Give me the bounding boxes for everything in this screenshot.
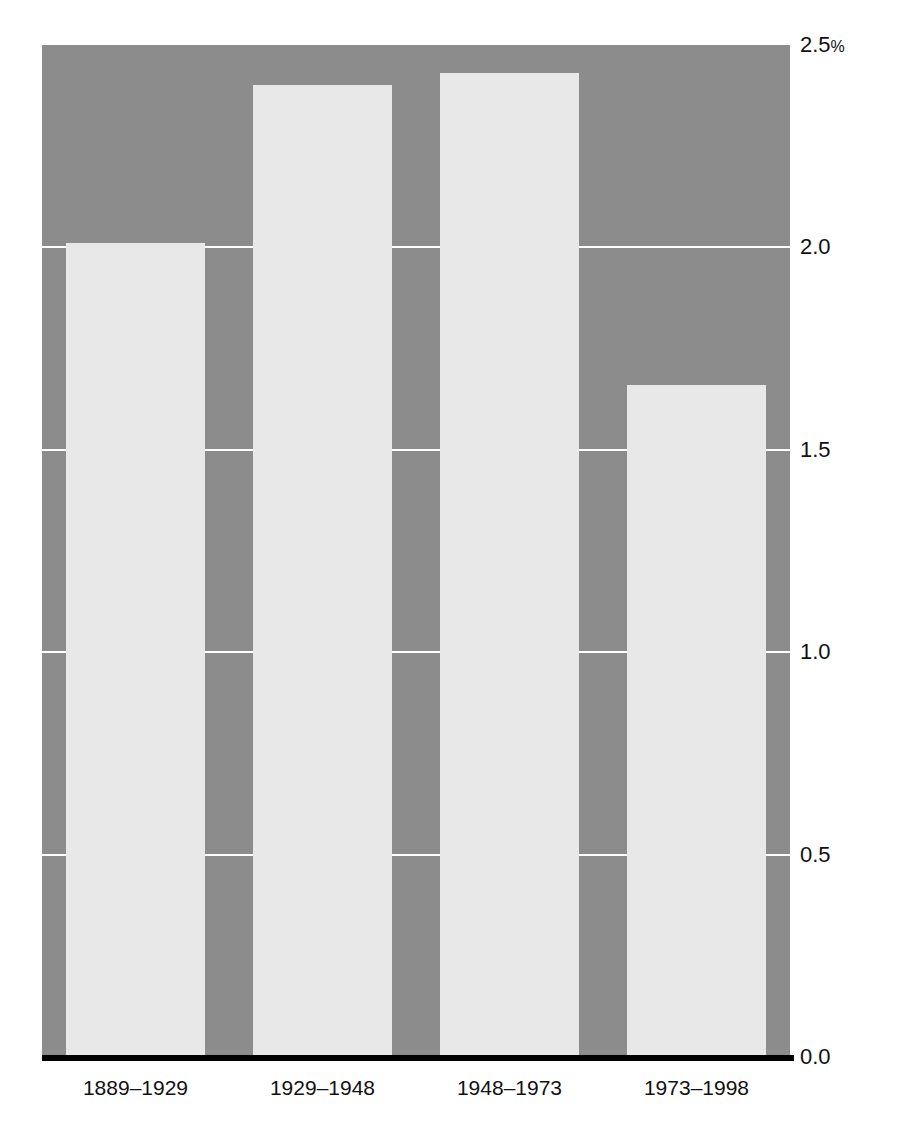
y-axis-tick-label: 1.5 — [800, 439, 831, 461]
y-axis-tick-value: 2.0 — [800, 234, 831, 259]
x-axis-tick-label: 1929–1948 — [223, 1077, 423, 1098]
x-axis-tick-label: 1973–1998 — [597, 1077, 797, 1098]
bar — [627, 385, 766, 1057]
bar — [253, 85, 392, 1057]
bar-chart-figure: 2.5%2.01.51.00.50.0 1889–19291929–194819… — [0, 0, 905, 1147]
y-axis-tick-label: 1.0 — [800, 641, 831, 663]
x-axis-tick-label: 1889–1929 — [36, 1077, 236, 1098]
chart-title — [0, 0, 905, 6]
y-axis-tick-value: 0.5 — [800, 842, 831, 867]
y-axis-tick-value: 1.5 — [800, 437, 831, 462]
y-axis-tick-label: 2.5% — [800, 34, 845, 56]
bar — [66, 243, 205, 1057]
y-axis-tick-value: 2.5 — [800, 32, 831, 57]
x-axis-tick-label: 1948–1973 — [410, 1077, 610, 1098]
bar — [440, 73, 579, 1057]
y-axis-tick-value: 1.0 — [800, 639, 831, 664]
y-axis-tick-value: 0.0 — [800, 1044, 831, 1069]
y-axis-tick-label: 0.5 — [800, 844, 831, 866]
plot-area — [42, 45, 790, 1057]
x-axis-baseline — [42, 1055, 794, 1061]
percent-symbol: % — [831, 38, 845, 55]
y-axis-tick-label: 2.0 — [800, 236, 831, 258]
y-axis-tick-label: 0.0 — [800, 1046, 831, 1068]
